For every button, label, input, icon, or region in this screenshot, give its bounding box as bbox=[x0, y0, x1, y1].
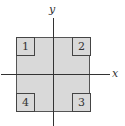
corner-region-2: 2 bbox=[72, 37, 91, 56]
x-axis-label: x bbox=[112, 67, 118, 80]
corner-region-4: 4 bbox=[16, 93, 35, 112]
y-axis bbox=[53, 18, 54, 126]
corner-region-3: 3 bbox=[72, 93, 91, 112]
corner-region-1: 1 bbox=[16, 37, 35, 56]
x-axis bbox=[1, 74, 110, 75]
y-axis-label: y bbox=[49, 3, 55, 16]
